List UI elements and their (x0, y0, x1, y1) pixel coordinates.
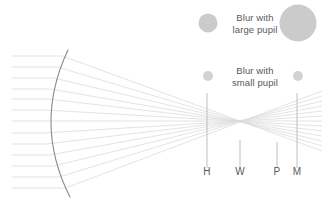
blur-disc-left-large (199, 14, 218, 33)
blur-disc-left-small (203, 71, 213, 81)
axis-label-p: P (269, 166, 285, 177)
refracted-ray (48, 99, 322, 131)
refracted-ray (44, 116, 322, 133)
axis-label-m: M (289, 166, 305, 177)
blur-disc-right-small (293, 71, 303, 81)
lens-surface (51, 50, 70, 197)
axis-label-h: H (199, 166, 215, 177)
refracted-ray (54, 101, 323, 166)
caption-large-pupil: Blur with large pupil (222, 12, 288, 35)
caption-small-pupil: Blur with small pupil (222, 65, 288, 88)
axis-label-w: W (232, 166, 248, 177)
refracted-ray (46, 111, 322, 144)
axis-marker-lines (207, 93, 297, 168)
diagram-canvas: Blur with large pupil Blur with small pu… (0, 0, 332, 202)
